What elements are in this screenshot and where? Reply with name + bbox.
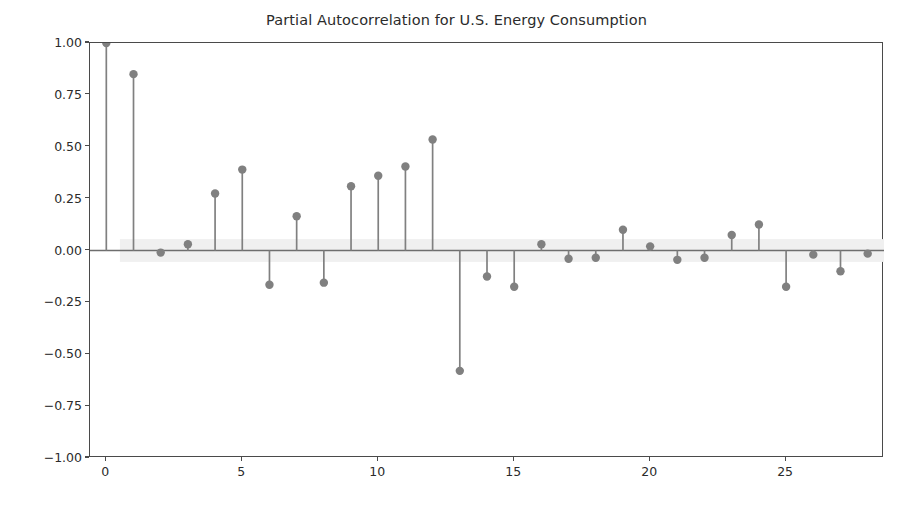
x-tick-label: 0 <box>85 464 125 479</box>
x-tick-mark <box>649 457 650 461</box>
y-tick-mark <box>85 301 89 302</box>
x-tick-label: 20 <box>629 464 669 479</box>
x-tick-label: 15 <box>493 464 533 479</box>
x-axis-tick-labels: 0510152025 <box>0 0 913 506</box>
x-tick-mark <box>377 457 378 461</box>
x-tick-label: 25 <box>765 464 805 479</box>
y-tick-mark <box>85 145 89 146</box>
x-tick-label: 10 <box>357 464 397 479</box>
y-tick-mark <box>85 456 89 457</box>
x-tick-mark <box>241 457 242 461</box>
y-tick-mark <box>85 353 89 354</box>
pacf-figure: Partial Autocorrelation for U.S. Energy … <box>0 0 913 506</box>
x-tick-mark <box>513 457 514 461</box>
x-tick-mark <box>105 457 106 461</box>
x-tick-mark <box>785 457 786 461</box>
y-tick-mark <box>85 93 89 94</box>
y-tick-mark <box>85 197 89 198</box>
y-tick-mark <box>85 249 89 250</box>
x-tick-label: 5 <box>221 464 261 479</box>
y-tick-mark <box>85 41 89 42</box>
y-tick-mark <box>85 405 89 406</box>
